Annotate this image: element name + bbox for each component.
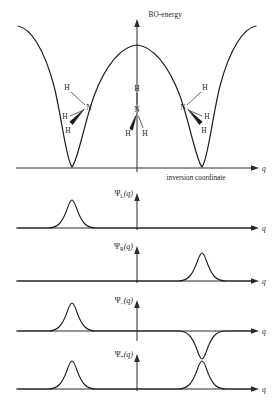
q-axis-label-psi-minus: q — [262, 327, 266, 336]
atom-n-left: N — [86, 103, 92, 112]
q-axis-label-psi-plus: q — [262, 385, 266, 394]
atom-h-right-1: H — [202, 83, 208, 92]
atom-h-right-3: H — [201, 126, 207, 135]
psi-plus-curve — [18, 361, 253, 389]
psi-L-label: ΨL(q) — [114, 189, 133, 199]
q-axis-label-psi-R: q — [262, 277, 266, 286]
psi-L-curve — [18, 200, 253, 228]
atom-n-right: N — [180, 103, 186, 112]
psi-plus-panel: Ψ+(q) q — [16, 350, 266, 394]
psi-plus-label: Ψ+(q) — [115, 350, 134, 360]
atom-h-center-2: H — [125, 129, 131, 138]
ammonia-inversion-figure: BO-energy q inversion coordinate H N H H… — [0, 0, 273, 402]
inversion-coordinate-caption: inversion coordinate — [167, 174, 226, 182]
right-pyramidal-ammonia: H N H H — [180, 83, 210, 135]
psi-L-panel: ΨL(q) q — [16, 189, 266, 233]
atom-h-center-1: H — [134, 84, 140, 93]
psi-minus-panel: Ψ−(q) q — [16, 296, 266, 359]
psi-R-label: ΨR(q) — [114, 242, 133, 252]
atom-h-left-2: H — [62, 112, 68, 121]
left-pyramidal-ammonia: H N H H — [62, 83, 92, 135]
psi-R-panel: ΨR(q) q — [16, 242, 266, 286]
q-axis-label-psi-L: q — [262, 224, 266, 233]
q-axis-label-potential: q — [262, 164, 266, 173]
atom-h-center-3: H — [142, 129, 148, 138]
atom-h-left-3: H — [65, 126, 71, 135]
potential-energy-panel: BO-energy q inversion coordinate H N H H… — [16, 11, 266, 182]
psi-minus-label: Ψ−(q) — [115, 296, 134, 306]
atom-n-center: N — [134, 105, 140, 114]
energy-axis-label: BO-energy — [148, 11, 182, 19]
atom-h-right-2: H — [204, 112, 210, 121]
psi-R-curve — [18, 253, 253, 281]
atom-h-left-1: H — [64, 83, 70, 92]
